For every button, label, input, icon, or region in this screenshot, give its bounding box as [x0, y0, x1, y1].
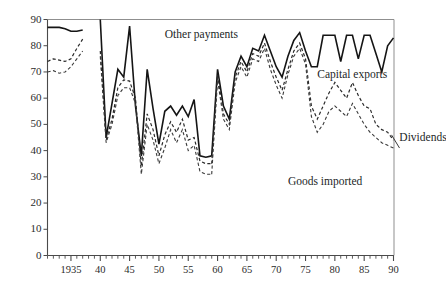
x-tick-label: 55: [173, 264, 203, 275]
y-tick-label: 90: [18, 14, 42, 25]
annotation-capital-exports: Capital exports: [317, 68, 387, 80]
x-tick-label: 60: [203, 264, 233, 275]
x-tick-label: 50: [144, 264, 174, 275]
y-tick-label: 80: [18, 40, 42, 51]
plot-area: [0, 0, 446, 298]
chart-figure: 0102030405060708090 19354045505560657075…: [0, 0, 446, 298]
y-tick-label: 20: [18, 197, 42, 208]
x-tick-label: 90: [379, 264, 409, 275]
series-line-dividends: [48, 51, 83, 73]
y-tick-label: 40: [18, 145, 42, 156]
series-line-other-payments: [212, 33, 394, 156]
annotation-goods-imported: Goods imported: [288, 175, 362, 187]
series-line-other-payments: [48, 27, 83, 31]
y-tick-label: 50: [18, 118, 42, 129]
annotation-other-payments: Other payments: [165, 28, 238, 40]
annotation-dividends: Dividends: [399, 131, 446, 143]
y-tick-label: 60: [18, 92, 42, 103]
x-tick-label: 75: [291, 264, 321, 275]
x-tick-label: 40: [85, 264, 115, 275]
y-tick-label: 0: [18, 250, 42, 261]
x-tick-label: 45: [115, 264, 145, 275]
x-tick-label: 1935: [56, 264, 86, 275]
y-tick-label: 30: [18, 171, 42, 182]
x-tick-label: 80: [320, 264, 350, 275]
x-tick-label: 65: [232, 264, 262, 275]
y-tick-label: 70: [18, 66, 42, 77]
y-tick-label: 10: [18, 223, 42, 234]
dividends-leader-line: [392, 135, 400, 148]
x-tick-label: 70: [261, 264, 291, 275]
x-tick-label: 85: [349, 264, 379, 275]
series-line-capital-exports: [48, 39, 83, 61]
